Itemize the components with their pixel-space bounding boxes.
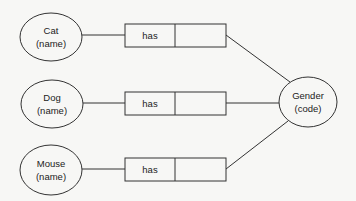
connector-has-gender-1 (226, 35, 290, 82)
entity-dog (21, 80, 83, 128)
entity-cat (20, 13, 82, 61)
er-diagram (0, 0, 356, 201)
connector-has-gender-3 (226, 121, 288, 169)
entity-gender (279, 77, 337, 127)
entity-mouse (20, 145, 82, 195)
